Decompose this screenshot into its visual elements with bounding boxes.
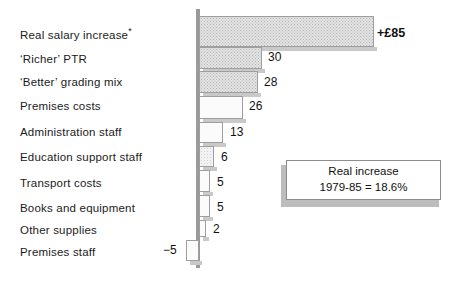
value-label-richer-ptr: 30 xyxy=(268,51,281,63)
bar-chart-figure: Real salary increase* ‘Richer’ PTR ‘Bett… xyxy=(0,0,451,283)
bar-real-salary-increase xyxy=(199,16,374,47)
callout-box: Real increase 1979-85 = 18.6% xyxy=(286,160,441,200)
bar-administration-staff xyxy=(199,122,223,143)
callout-line-2: 1979-85 = 18.6% xyxy=(320,180,408,196)
bar-other-supplies xyxy=(199,220,206,237)
value-label-education-support-staff: 6 xyxy=(221,151,228,163)
bar-education-support-staff xyxy=(199,146,214,167)
bar-transport-costs xyxy=(199,170,210,192)
bar-better-grading-mix xyxy=(199,71,258,93)
value-label-premises-staff: −5 xyxy=(163,244,177,256)
value-label-administration-staff: 13 xyxy=(230,126,243,138)
bar-richer-ptr xyxy=(199,47,262,69)
callout-line-1: Real increase xyxy=(328,164,398,180)
value-label-books-and-equipment: 5 xyxy=(217,201,224,213)
bar-premises-costs xyxy=(199,96,243,119)
value-label-other-supplies: 2 xyxy=(213,223,220,235)
bar-premises-staff xyxy=(186,240,199,261)
value-label-real-salary-increase: +£85 xyxy=(377,27,405,40)
annotation-callout: Real increase 1979-85 = 18.6% xyxy=(281,160,441,204)
value-label-premises-costs: 26 xyxy=(249,100,262,112)
plot-area: +£85 30 28 26 13 6 5 5 2 xyxy=(0,0,451,283)
bar-books-and-equipment xyxy=(199,195,210,217)
value-label-better-grading-mix: 28 xyxy=(264,76,277,88)
bar-shadow-other-supplies xyxy=(203,237,209,241)
bar-shadow-premises-staff xyxy=(190,261,202,265)
value-label-transport-costs: 5 xyxy=(217,176,224,188)
